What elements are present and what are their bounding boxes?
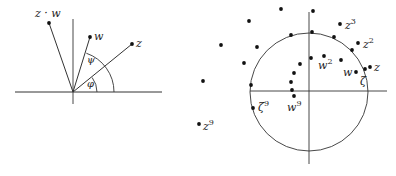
power-point [310, 30, 314, 34]
power-point [242, 61, 246, 65]
power-point [339, 58, 343, 62]
left-diagram-angle-addition: z · wwzψφ [15, 7, 162, 104]
power-point [247, 19, 251, 23]
point-z2 [356, 41, 360, 45]
power-point [279, 7, 283, 11]
point-zeta [363, 67, 367, 71]
point-w2 [322, 54, 326, 58]
power-point [292, 71, 296, 75]
right-diagram-unit-circle-powers: z3z2zζww2w9ζ9z9 [197, 7, 387, 164]
label-z2: z2 [362, 36, 374, 51]
power-point [289, 80, 293, 84]
label-zeta9: ζ9 [258, 99, 269, 114]
label-z3: z3 [344, 17, 356, 32]
point-zeta9 [251, 106, 255, 110]
power-point [201, 79, 205, 83]
power-point [289, 33, 293, 37]
point-w [354, 70, 358, 74]
ray-z [73, 44, 132, 92]
label-w9: w9 [287, 99, 302, 114]
power-point [255, 45, 259, 49]
label-w: w [94, 30, 104, 43]
power-point [332, 35, 336, 39]
label-z: z [373, 61, 380, 74]
label-zeta: ζ [360, 75, 367, 88]
point-w9 [292, 94, 296, 98]
point-z [130, 42, 134, 46]
point-z9 [197, 122, 201, 126]
point-zw [47, 21, 51, 25]
point-z [368, 65, 372, 69]
label-w: w [343, 66, 353, 79]
label-w2: w2 [318, 57, 333, 72]
label-z9: z9 [202, 118, 214, 133]
power-point [290, 88, 294, 92]
power-point [309, 56, 313, 60]
angle-label-phi: φ [87, 78, 94, 89]
ray-zw [49, 23, 73, 92]
point-w [88, 35, 92, 39]
power-point [298, 62, 302, 66]
complex-multiplication-figure: z · wwzψφ z3z2zζww2w9ζ9z9 [0, 0, 396, 176]
label-zw: z · w [34, 7, 61, 20]
point-z3 [338, 22, 342, 26]
power-point [219, 43, 223, 47]
power-point [249, 83, 253, 87]
power-point [350, 48, 354, 52]
angle-label-psi: ψ [87, 54, 95, 65]
power-point [311, 9, 315, 13]
label-z: z [135, 37, 142, 50]
